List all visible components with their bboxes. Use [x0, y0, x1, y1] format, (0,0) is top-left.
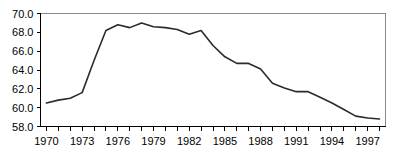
- x-tick-label: 1976: [106, 135, 130, 147]
- x-tick-label: 1982: [177, 135, 201, 147]
- y-tick-label: 58.0: [12, 121, 33, 133]
- x-tick-label: 1979: [141, 135, 165, 147]
- x-tick-label: 1973: [70, 135, 94, 147]
- x-tick-label: 1991: [284, 135, 308, 147]
- chart-container: 70.068.066.064.062.060.058.0 19701973197…: [0, 0, 404, 157]
- chart-background: [0, 0, 404, 157]
- x-tick-label: 1970: [34, 135, 58, 147]
- y-tick-label: 66.0: [12, 45, 33, 57]
- x-tick-label: 1997: [355, 135, 379, 147]
- x-tick-label: 1985: [213, 135, 237, 147]
- y-tick-label: 64.0: [12, 64, 33, 76]
- x-tick-label: 1994: [320, 135, 344, 147]
- y-tick-label: 68.0: [12, 26, 33, 38]
- line-chart: 70.068.066.064.062.060.058.0 19701973197…: [0, 0, 404, 157]
- x-tick-label: 1988: [248, 135, 272, 147]
- y-tick-label: 70.0: [12, 8, 33, 20]
- y-tick-label: 60.0: [12, 102, 33, 114]
- y-tick-label: 62.0: [12, 83, 33, 95]
